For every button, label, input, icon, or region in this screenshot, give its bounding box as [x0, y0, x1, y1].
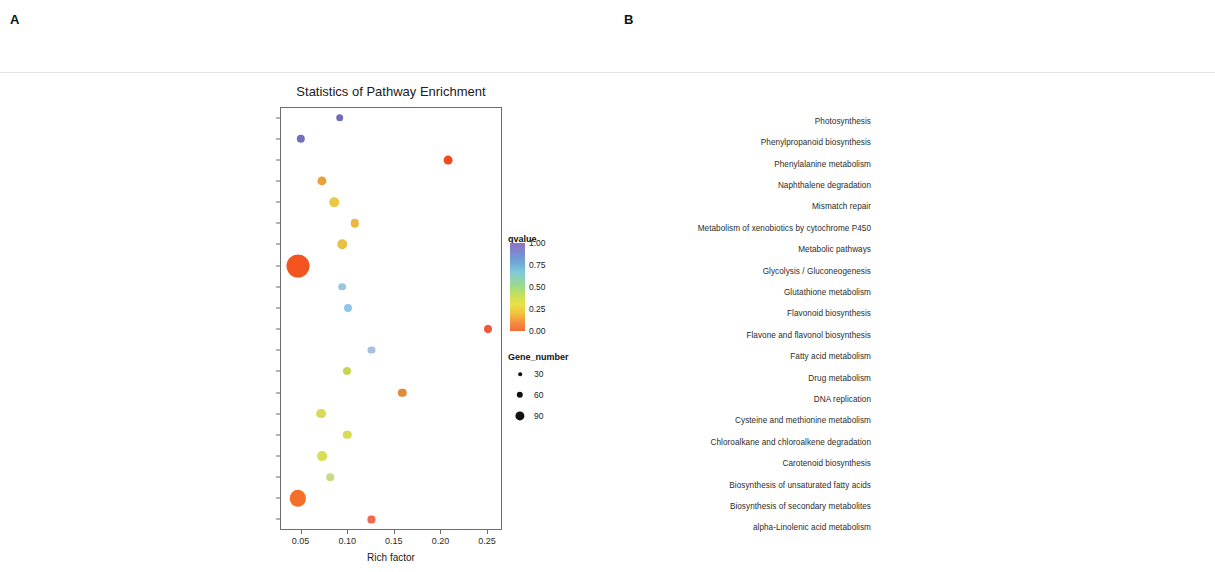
- y-axis-tick: [276, 117, 280, 118]
- y-axis-category-label: Flavone and flavonol biosynthesis: [746, 330, 871, 339]
- y-axis-tick: [276, 350, 280, 351]
- y-axis-category-label: Glutathione metabolism: [784, 287, 871, 296]
- y-axis-tick: [276, 392, 280, 393]
- data-point-bubble: [327, 473, 335, 481]
- x-axis-tick: [487, 530, 488, 534]
- data-point-bubble: [336, 114, 344, 122]
- y-axis-tick: [276, 286, 280, 287]
- y-axis-category-label: Flavonoid biosynthesis: [787, 309, 871, 318]
- y-axis-tick: [276, 244, 280, 245]
- x-axis-tick-label: 0.15: [385, 536, 403, 546]
- y-axis-category-label: Photosynthesis: [815, 116, 871, 125]
- y-axis-tick: [276, 477, 280, 478]
- qvalue-colorbar: [510, 243, 525, 331]
- data-point-bubble: [317, 451, 327, 461]
- data-point-bubble: [443, 155, 452, 164]
- x-axis-title: Rich factor: [367, 552, 415, 563]
- y-axis-tick: [276, 223, 280, 224]
- data-point-bubble: [316, 409, 326, 419]
- y-axis-category-label: DNA replication: [814, 394, 871, 403]
- x-axis-tick: [347, 530, 348, 534]
- chart-title: Statistics of Pathway Enrichment: [296, 84, 485, 99]
- y-axis-tick: [276, 159, 280, 160]
- colorbar-tick-label: 0.50: [529, 282, 546, 292]
- y-axis-category-label: Glycolysis / Gluconeogenesis: [763, 266, 871, 275]
- plot-area: [280, 107, 502, 530]
- y-axis-tick: [276, 138, 280, 139]
- y-axis-category-label: Biosynthesis of unsaturated fatty acids: [729, 480, 871, 489]
- x-axis-tick-label: 0.10: [338, 536, 356, 546]
- data-point-bubble: [343, 367, 351, 375]
- y-axis-category-label: Carotenoid biosynthesis: [782, 459, 871, 468]
- y-axis-tick: [276, 519, 280, 520]
- colorbar-tick-label: 0.00: [529, 326, 546, 336]
- gene-number-legend-dot: [518, 372, 522, 376]
- y-axis-tick: [276, 181, 280, 182]
- data-point-bubble: [484, 325, 492, 333]
- y-axis-tick: [276, 265, 280, 266]
- legend-title-gene-number: Gene_number: [508, 352, 569, 362]
- y-axis-tick: [276, 371, 280, 372]
- y-axis-category-label: Metabolism of xenobiotics by cytochrome …: [698, 223, 871, 232]
- y-axis-category-label: Metabolic pathways: [798, 245, 871, 254]
- x-axis-tick-label: 0.20: [432, 536, 450, 546]
- y-axis-tick: [276, 434, 280, 435]
- y-axis-category-label: Chloroalkane and chloroalkene degradatio…: [711, 437, 871, 446]
- x-axis-tick: [301, 530, 302, 534]
- panel-b-bubble-chart: Statistics of Pathway EnrichmentPhotosyn…: [605, 0, 1215, 572]
- y-axis-category-label: Phenylpropanoid biosynthesis: [761, 138, 871, 147]
- gene-number-legend-label: 60: [534, 390, 543, 400]
- y-axis-category-label: Drug metabolism: [808, 373, 871, 382]
- y-axis-tick: [276, 413, 280, 414]
- x-axis-tick-label: 0.25: [478, 536, 496, 546]
- data-point-bubble: [344, 304, 352, 312]
- colorbar-tick-label: 0.75: [529, 260, 546, 270]
- y-axis-tick: [276, 329, 280, 330]
- y-axis-category-label: Naphthalene degradation: [778, 180, 871, 189]
- y-axis-category-label: Fatty acid metabolism: [790, 352, 871, 361]
- y-axis-tick: [276, 455, 280, 456]
- y-axis-category-label: Phenylalanine metabolism: [774, 159, 871, 168]
- y-axis-category-label: Cysteine and methionine metabolism: [735, 416, 871, 425]
- y-axis-tick: [276, 202, 280, 203]
- y-axis-tick: [276, 307, 280, 308]
- colorbar-tick-label: 0.25: [529, 304, 546, 314]
- y-axis-category-label: Biosynthesis of secondary metabolites: [730, 501, 871, 510]
- gene-number-legend-dot: [517, 392, 523, 398]
- panel-a-bubble-chart: Statistics of Pathway EnrichmentUbiquino…: [0, 0, 610, 572]
- y-axis-category-label: alpha-Linolenic acid metabolism: [753, 523, 871, 532]
- data-point-bubble: [286, 254, 309, 277]
- data-point-bubble: [339, 283, 347, 291]
- x-axis-tick: [394, 530, 395, 534]
- y-axis-category-label: Mismatch repair: [812, 202, 871, 211]
- gene-number-legend-label: 30: [534, 369, 543, 379]
- x-axis-tick-label: 0.05: [292, 536, 310, 546]
- x-axis-tick: [440, 530, 441, 534]
- gene-number-legend-dot: [515, 411, 524, 420]
- colorbar-tick-label: 1.00: [529, 238, 546, 248]
- gene-number-legend-label: 90: [534, 411, 543, 421]
- y-axis-tick: [276, 498, 280, 499]
